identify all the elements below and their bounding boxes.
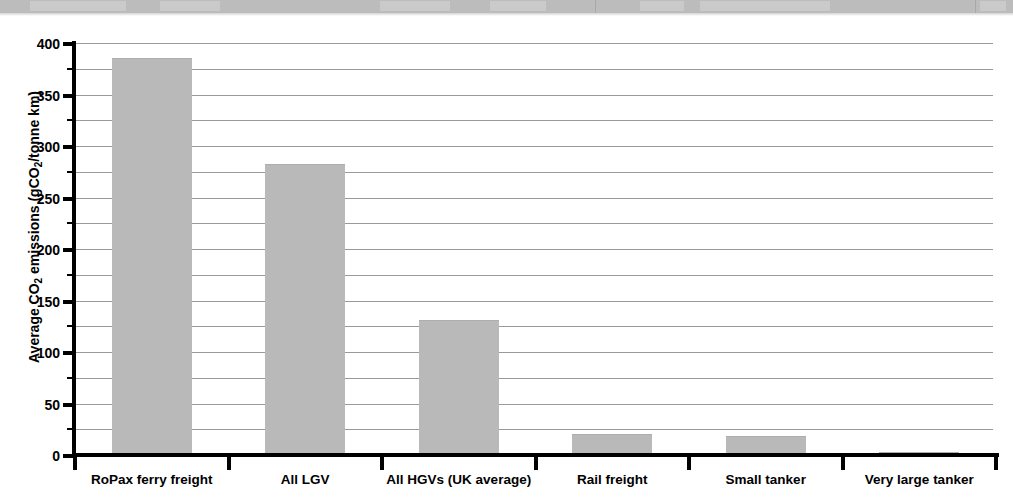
x-tick-label: All HGVs (UK average): [382, 473, 536, 497]
y-tick-label: 200: [20, 243, 60, 257]
x-tick-label: RoPax ferry freight: [75, 473, 229, 497]
y-minor-tick: [67, 428, 74, 430]
y-major-tick: [63, 248, 74, 252]
x-tick: [380, 457, 384, 470]
plot-area: [75, 43, 996, 455]
y-major-tick: [63, 145, 74, 149]
bar: [265, 164, 345, 455]
y-minor-tick: [67, 274, 74, 276]
y-major-tick: [63, 197, 74, 201]
x-tick: [227, 457, 231, 470]
y-minor-tick: [67, 171, 74, 173]
y-minor-tick: [67, 68, 74, 70]
bar-slot: [382, 43, 536, 455]
y-minor-tick: [67, 377, 74, 379]
y-tick-label: 100: [20, 346, 60, 360]
bar-slot: [536, 43, 690, 455]
y-major-tick: [63, 300, 74, 304]
y-tick-label: 250: [20, 192, 60, 206]
scan-artifact-band: [0, 0, 1013, 13]
x-tick-label: All LGV: [229, 473, 383, 497]
bar-slot: [843, 43, 997, 455]
x-tick: [994, 457, 998, 470]
chart-page: Average CO2 emissions (gCO2/tonne km) 05…: [0, 0, 1013, 503]
x-tick-label: Small tanker: [689, 473, 843, 497]
x-tick: [687, 457, 691, 470]
y-tick-label: 50: [20, 398, 60, 412]
x-tick: [73, 457, 77, 470]
y-minor-tick: [67, 119, 74, 121]
y-minor-tick: [67, 222, 74, 224]
bar-slot: [75, 43, 229, 455]
y-tick-label: 400: [20, 37, 60, 51]
y-tick-label: 150: [20, 295, 60, 309]
y-tick-label: 350: [20, 89, 60, 103]
bar-chart: Average CO2 emissions (gCO2/tonne km) 05…: [0, 16, 1013, 503]
y-major-tick: [63, 42, 74, 46]
x-tick-label: Rail freight: [536, 473, 690, 497]
y-major-tick: [63, 351, 74, 355]
bar: [112, 58, 192, 455]
y-tick-label: 300: [20, 140, 60, 154]
bar-slot: [229, 43, 383, 455]
y-tick-label: 0: [20, 449, 60, 463]
bar: [419, 320, 499, 455]
x-tick: [841, 457, 845, 470]
bar: [572, 434, 652, 455]
y-tick-label-group: 050100150200250300350400: [16, 16, 60, 503]
x-tick-label: Very large tanker: [843, 473, 997, 497]
y-major-tick: [63, 403, 74, 407]
bar-slot: [689, 43, 843, 455]
x-tick: [534, 457, 538, 470]
y-major-tick: [63, 94, 74, 98]
bar-group: [75, 43, 996, 455]
y-minor-tick: [67, 325, 74, 327]
x-tick-label-group: RoPax ferry freightAll LGVAll HGVs (UK a…: [75, 473, 996, 497]
